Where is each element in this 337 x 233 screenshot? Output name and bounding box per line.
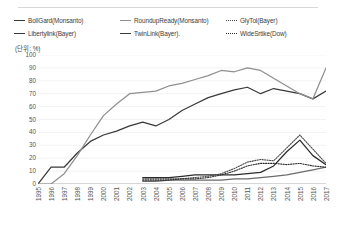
legend-column-1: BollGard(Monsanto) Libertylink(Bayer) <box>14 15 120 41</box>
line-swatch-icon <box>120 30 131 37</box>
x-axis-tick-label: 2011 <box>244 187 251 201</box>
legend-item-glytol[interactable]: GlyTol(Bayer) <box>226 15 332 26</box>
x-axis-tick-label: 2004 <box>153 187 160 201</box>
legend-item-twinlink[interactable]: TwinLink(Bayer). <box>120 28 226 39</box>
legend-label: GlyTol(Bayer) <box>240 17 277 25</box>
x-axis-tick-label: 2013 <box>270 187 277 201</box>
x-axis-tick-label: 2014 <box>284 187 291 201</box>
x-axis-tick-label: 2009 <box>218 187 225 201</box>
x-axis-tick-label: 2016 <box>310 187 317 201</box>
plot-area <box>38 55 326 184</box>
legend-column-2: RoundupReady(Monsanto) TwinLink(Bayer). <box>120 15 226 41</box>
legend-label: RoundupReady(Monsanto) <box>134 17 209 25</box>
x-axis-tick-label: 2008 <box>205 187 212 201</box>
line-swatch-icon <box>120 17 131 24</box>
x-axis-tick-label: 2005 <box>166 187 173 201</box>
x-axis-tick-label: 2002 <box>126 187 133 201</box>
series-line <box>143 140 326 177</box>
x-axis-tick-label: 2010 <box>231 187 238 201</box>
legend-item-roundupready[interactable]: RoundupReady(Monsanto) <box>120 15 226 26</box>
x-axis-tick-label: 1996 <box>48 187 55 201</box>
legend-item-libertylink[interactable]: Libertylink(Bayer) <box>14 28 120 39</box>
legend-item-bollgard[interactable]: BollGard(Monsanto) <box>14 15 120 26</box>
series-line <box>38 68 326 184</box>
legend-label: Libertylink(Bayer) <box>28 30 76 38</box>
y-axis-tick-label: 60 <box>10 104 36 110</box>
chart-svg <box>38 55 326 184</box>
y-axis: 1009080706050403020100 <box>10 50 36 190</box>
chart-legend: BollGard(Monsanto) Libertylink(Bayer) Ro… <box>14 15 332 41</box>
legend-column-3: GlyTol(Bayer) WideSrtike(Dow) <box>226 15 332 41</box>
y-axis-tick-label: 20 <box>10 155 36 161</box>
x-axis: 1995199619971998199920002001200220032004… <box>38 187 330 231</box>
dotted-line-swatch-icon <box>226 30 237 37</box>
y-axis-tick-label: 30 <box>10 142 36 148</box>
x-axis-tick-label: 2017 <box>323 187 330 201</box>
line-swatch-icon <box>14 17 25 24</box>
x-axis-tick-label: 1995 <box>35 187 42 201</box>
x-axis-tick-label: 2006 <box>179 187 186 201</box>
x-axis-tick-label: 1999 <box>87 187 94 201</box>
legend-label: TwinLink(Bayer). <box>134 30 180 38</box>
x-axis-tick-label: 2007 <box>192 187 199 201</box>
legend-label: WideSrtike(Dow) <box>240 30 286 38</box>
y-axis-tick-label: 90 <box>10 65 36 71</box>
legend-label: BollGard(Monsanto) <box>28 17 83 25</box>
dotted-line-swatch-icon <box>226 17 237 24</box>
y-axis-tick-label: 40 <box>10 129 36 135</box>
x-axis-tick-label: 2015 <box>297 187 304 201</box>
y-axis-tick-label: 10 <box>10 168 36 174</box>
x-axis-tick-label: 2003 <box>140 187 147 201</box>
x-axis-tick-label: 1997 <box>61 187 68 201</box>
y-axis-tick-label: 50 <box>10 117 36 123</box>
legend-item-widestrike[interactable]: WideSrtike(Dow) <box>226 28 332 39</box>
line-swatch-icon <box>14 30 25 37</box>
y-axis-tick-label: 80 <box>10 78 36 84</box>
x-axis-tick-label: 2012 <box>257 187 264 201</box>
series-line <box>38 87 326 184</box>
series-lines <box>38 68 326 184</box>
x-axis-tick-label: 1998 <box>74 187 81 201</box>
x-axis-tick-label: 2000 <box>100 187 107 201</box>
x-axis-tick-label: 2001 <box>113 187 120 201</box>
top-divider <box>18 7 318 8</box>
y-axis-tick-label: 100 <box>10 52 36 58</box>
y-axis-tick-label: 0 <box>10 181 36 187</box>
y-axis-tick-label: 70 <box>10 91 36 97</box>
